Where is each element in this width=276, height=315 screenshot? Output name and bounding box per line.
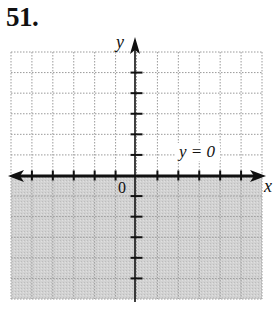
line-label: y = 0 xyxy=(177,142,216,161)
y-axis-label: y xyxy=(114,32,124,52)
x-axis-label: x xyxy=(263,176,272,196)
origin-label: 0 xyxy=(118,179,126,196)
coordinate-plane: y = 0 y x 0 xyxy=(0,0,276,315)
